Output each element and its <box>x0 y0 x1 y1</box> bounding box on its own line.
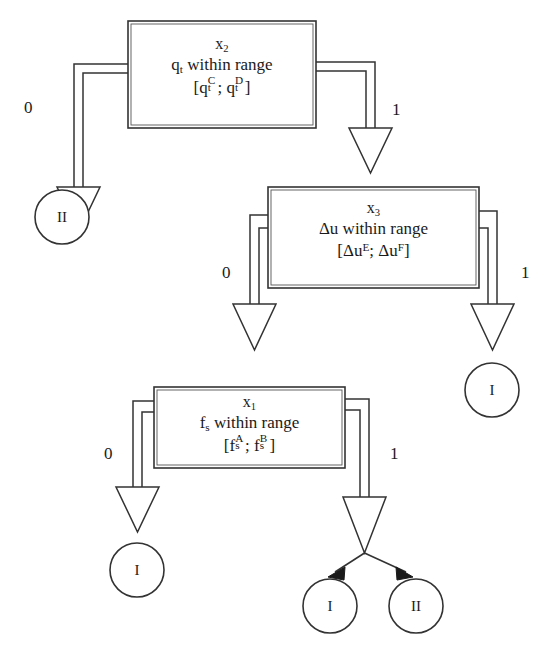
leaf-circle-x2-0 <box>35 190 89 244</box>
leaf-circle-x3-1 <box>465 363 519 417</box>
decision-tree-diagram: leaf II (left, down) ============ --> x3… <box>0 0 554 664</box>
edge-split-left <box>328 553 365 580</box>
leaf-circle-x1-1b <box>389 579 443 633</box>
edge-x2-1 <box>316 62 392 173</box>
node-box-x1 <box>154 387 345 468</box>
decision-tree-svg: leaf II (left, down) ============ --> x3… <box>0 0 554 664</box>
node-box-x3 <box>268 187 479 288</box>
edge-x1-1 <box>343 399 386 553</box>
leaf-circle-x1-1a <box>303 579 357 633</box>
edge-split-right <box>365 553 414 580</box>
leaf-circle-x1-0 <box>110 543 164 597</box>
edge-x1-0 <box>116 401 159 532</box>
node-box-x2 <box>128 21 316 128</box>
